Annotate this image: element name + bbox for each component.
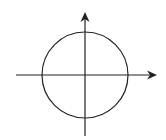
diagram-canvas [0, 0, 166, 140]
